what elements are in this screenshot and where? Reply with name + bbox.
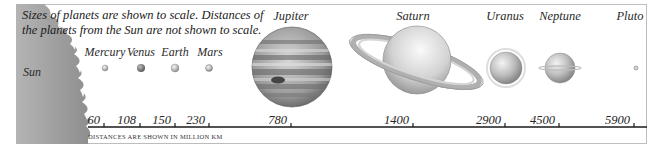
jupiter-icon	[250, 27, 340, 107]
earth-icon	[171, 64, 179, 72]
tick-label-pluto: 5900	[605, 114, 634, 127]
venus-icon	[137, 64, 145, 72]
tick-label-uranus: 2900	[476, 114, 505, 127]
scale-note: Sizes of planets are shown to scale. Dis…	[22, 8, 277, 37]
tick-label-jupiter: 780	[268, 114, 291, 127]
neptune-label: Neptune	[539, 10, 581, 23]
great-red-spot-icon	[271, 77, 285, 84]
tick-label-venus: 108	[117, 114, 140, 127]
mars-icon	[206, 65, 213, 72]
distance-caption: Distances are shown in million km	[88, 133, 223, 140]
neptune-icon	[539, 53, 581, 83]
mercury-label: Mercury	[85, 46, 126, 58]
sun-label: Sun	[23, 66, 41, 78]
saturn-label: Saturn	[396, 10, 429, 23]
saturn-icon	[344, 23, 488, 101]
pluto-icon	[634, 66, 638, 70]
tick-label-mars: 230	[186, 114, 209, 127]
tick-label-earth: 150	[152, 114, 175, 127]
pluto-label: Pluto	[616, 10, 643, 23]
tick-label-neptune: 4500	[530, 114, 559, 127]
tick-label-saturn: 1400	[384, 114, 413, 127]
jupiter-label: Jupiter	[273, 10, 308, 23]
earth-label: Earth	[161, 46, 188, 58]
tick-label-mercury: 60	[88, 114, 105, 127]
mercury-icon	[102, 65, 108, 71]
uranus-label: Uranus	[486, 10, 524, 23]
venus-label: Venus	[127, 46, 155, 58]
uranus-icon	[487, 49, 525, 87]
mars-label: Mars	[197, 46, 222, 58]
